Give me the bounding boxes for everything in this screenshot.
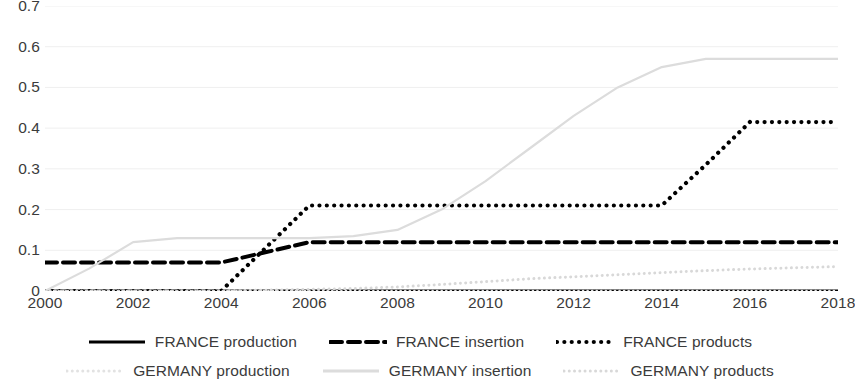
- plot-svg: [45, 6, 838, 291]
- legend-item[interactable]: FRANCE production: [88, 333, 297, 351]
- gridlines: [45, 6, 838, 291]
- series-lines: [45, 59, 838, 291]
- legend-item[interactable]: FRANCE products: [556, 333, 752, 351]
- series-line-france-insertion: [45, 242, 838, 262]
- y-tick-label: 0.1: [0, 242, 40, 257]
- light-solid-line-swatch: [322, 364, 380, 378]
- x-tick-label: 2012: [556, 294, 591, 312]
- dotted-line-swatch: [556, 335, 614, 349]
- legend-item[interactable]: GERMANY production: [66, 362, 290, 380]
- legend-label: GERMANY production: [133, 362, 290, 380]
- legend-item[interactable]: GERMANY insertion: [322, 362, 532, 380]
- y-tick-label: 0.4: [0, 120, 40, 135]
- y-tick-label: 0.6: [0, 39, 40, 54]
- series-line-france-products: [45, 122, 838, 291]
- legend-label: FRANCE products: [623, 333, 752, 351]
- legend-label: FRANCE production: [155, 333, 297, 351]
- legend-label: GERMANY insertion: [389, 362, 532, 380]
- light-dotted-line-swatch: [563, 364, 621, 378]
- x-tick-label: 2014: [644, 294, 679, 312]
- x-tick-label: 2000: [28, 294, 63, 312]
- legend-item[interactable]: FRANCE insertion: [329, 333, 524, 351]
- x-tick-label: 2008: [380, 294, 415, 312]
- x-tick-label: 2006: [292, 294, 327, 312]
- series-line-germany-insertion: [45, 59, 838, 291]
- x-tick-label: 2010: [468, 294, 503, 312]
- x-tick-label: 2002: [116, 294, 151, 312]
- dashed-line-swatch: [329, 335, 387, 349]
- x-axis: 2000200220042006200820102012201420162018: [45, 294, 838, 318]
- legend-label: FRANCE insertion: [396, 333, 524, 351]
- legend-label: GERMANY products: [630, 362, 773, 380]
- chart-legend: FRANCE productionFRANCE insertionFRANCE …: [0, 326, 840, 390]
- y-tick-label: 0.3: [0, 161, 40, 176]
- y-tick-label: 0.5: [0, 79, 40, 94]
- y-tick-label: 0.2: [0, 202, 40, 217]
- solid-line-swatch: [88, 335, 146, 349]
- legend-row: FRANCE productionFRANCE insertionFRANCE …: [0, 328, 840, 356]
- light-dotted-line-swatch: [66, 364, 124, 378]
- y-axis: 0.70.60.50.40.30.20.10: [0, 0, 40, 291]
- y-tick-label: 0.7: [0, 0, 40, 13]
- legend-row: GERMANY productionGERMANY insertionGERMA…: [0, 357, 840, 385]
- legend-item[interactable]: GERMANY products: [563, 362, 773, 380]
- x-tick-label: 2018: [821, 294, 855, 312]
- x-tick-label: 2016: [732, 294, 767, 312]
- plot-area: [45, 6, 838, 291]
- x-tick-label: 2004: [204, 294, 239, 312]
- series-line-germany-products: [45, 267, 838, 291]
